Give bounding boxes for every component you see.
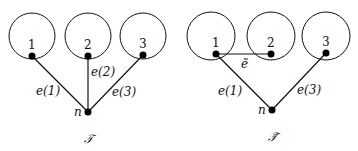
left-subtree-2-circle bbox=[65, 13, 111, 59]
right-leaf-node-3 bbox=[323, 50, 330, 57]
right-tree-caption: 𝒯̃ bbox=[268, 130, 281, 144]
right-root-node bbox=[269, 107, 276, 114]
left-root-label: n bbox=[74, 105, 82, 119]
right-leaf-label-1: 1 bbox=[212, 36, 220, 50]
left-leaf-label-2: 2 bbox=[84, 38, 92, 52]
tree-diagram: 1 2 3 e(1) e(2) e(3) n 𝒯 1 2 3 ẽ e(1) e(… bbox=[0, 0, 358, 151]
left-edge-label-2: e(2) bbox=[91, 65, 115, 79]
left-edge-label-3: e(3) bbox=[112, 85, 136, 99]
left-leaf-label-1: 1 bbox=[28, 38, 36, 52]
right-leaf-label-3: 3 bbox=[322, 35, 330, 49]
left-edge-3 bbox=[88, 55, 143, 112]
right-edge-label-3: e(3) bbox=[297, 83, 321, 97]
right-subtree-1-circle bbox=[187, 12, 235, 60]
left-leaf-node-3 bbox=[140, 52, 147, 59]
left-subtree-1-circle bbox=[9, 13, 55, 59]
right-leaf-node-2 bbox=[268, 51, 275, 58]
left-root-node bbox=[85, 109, 92, 116]
right-edge-3 bbox=[272, 53, 326, 110]
left-tree: 1 2 3 e(1) e(2) e(3) n 𝒯 bbox=[9, 13, 166, 146]
right-extra-edge-label: ẽ bbox=[241, 57, 248, 71]
left-tree-caption: 𝒯 bbox=[84, 132, 97, 146]
right-edge-label-1: e(1) bbox=[218, 84, 242, 98]
left-leaf-node-1 bbox=[29, 53, 36, 60]
right-leaf-label-2: 2 bbox=[267, 36, 275, 50]
left-leaf-label-3: 3 bbox=[139, 37, 147, 51]
right-tree: 1 2 3 ẽ e(1) e(3) n 𝒯̃ bbox=[187, 12, 350, 144]
right-root-label: n bbox=[258, 103, 266, 117]
left-leaf-node-2 bbox=[85, 53, 92, 60]
right-leaf-node-1 bbox=[213, 51, 220, 58]
left-edge-label-1: e(1) bbox=[36, 84, 60, 98]
